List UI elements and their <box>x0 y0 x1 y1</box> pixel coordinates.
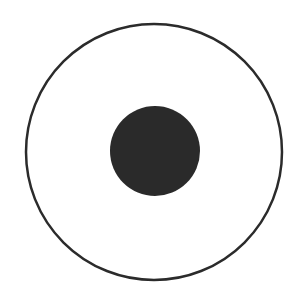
diagram-canvas <box>0 0 305 307</box>
inner-disk <box>110 106 200 196</box>
